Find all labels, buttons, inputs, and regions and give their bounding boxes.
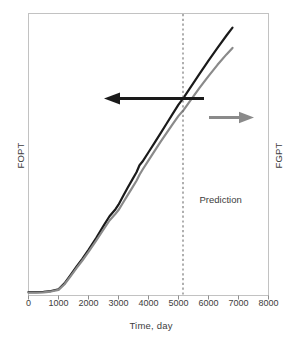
x-tick-label: 3000 [108,298,128,308]
x-tick-label: 0 [26,298,31,308]
y-axis-label-right: FGPT [273,126,284,186]
x-tick-label: 2000 [78,298,98,308]
plot-canvas [0,0,302,344]
x-tick-label: 8000 [258,298,278,308]
x-tick-label: 7000 [228,298,248,308]
prediction-annotation-label: Prediction [200,194,242,205]
x-tick-label: 4000 [138,298,158,308]
x-tick-label: 1000 [48,298,68,308]
y-axis-label-left: FOPT [15,126,26,186]
plot-frame [29,14,269,296]
x-axis-label: Time, day [0,320,302,331]
x-tick-label: 6000 [198,298,218,308]
x-tick-label: 5000 [168,298,188,308]
chart-figure: FOPT FGPT Time, day 01000200030004000500… [0,0,302,344]
